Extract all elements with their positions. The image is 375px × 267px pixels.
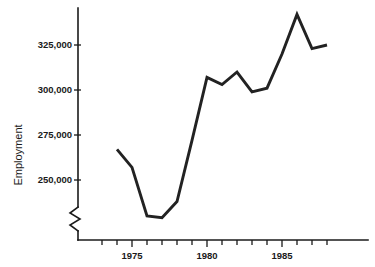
chart-canvas: Employment 325,000 300,000 275,000 250,0… [0,0,375,267]
y-tick-label-325000: 325,000 [38,39,72,50]
y-tick-label-300000: 300,000 [38,84,72,95]
y-tick-label-250000: 250,000 [38,174,72,185]
x-tick-label-1975: 1975 [121,250,143,261]
y-tick-label-275000: 275,000 [38,129,72,140]
employment-data-line [117,14,327,217]
y-axis-title: Employment [12,124,24,185]
y-axis-break-icon [70,207,80,231]
x-tick-label-1985: 1985 [271,250,293,261]
x-tick-label-1980: 1980 [196,250,217,261]
employment-line-chart: Employment 325,000 300,000 275,000 250,0… [0,0,375,267]
